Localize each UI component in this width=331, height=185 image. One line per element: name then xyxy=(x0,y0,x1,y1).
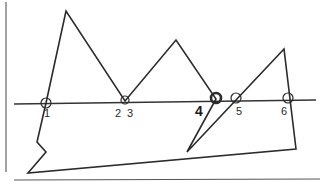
bottom-rule-line xyxy=(14,179,320,180)
crossing-label-5: 5 xyxy=(236,106,242,117)
crossing-label-2: 2 xyxy=(115,108,121,119)
crossing-label-1: 1 xyxy=(44,108,50,119)
crossing-circle-6 xyxy=(283,93,293,103)
polygon-outline xyxy=(28,11,296,173)
crossing-label-6: 6 xyxy=(281,106,287,117)
crossing-label-4: 4 xyxy=(195,104,203,118)
crossing-label-3: 3 xyxy=(127,108,133,119)
polygon-crossing-diagram xyxy=(0,0,331,185)
horizontal-ray xyxy=(14,100,316,104)
